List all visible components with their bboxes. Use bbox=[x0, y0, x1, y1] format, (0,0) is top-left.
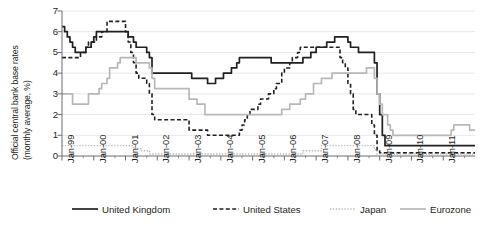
x-axis-tick-label: Jan-00 bbox=[98, 135, 108, 163]
legend-item-eurozone[interactable]: Eurozone bbox=[400, 200, 471, 218]
chart-svg bbox=[62, 11, 475, 156]
y-axis-tick-label: 4 bbox=[44, 67, 58, 78]
legend-swatch-icon bbox=[213, 204, 239, 214]
legend-item-japan[interactable]: Japan bbox=[330, 200, 386, 218]
x-axis-tick-label: Jan-05 bbox=[257, 135, 267, 163]
legend-label: United States bbox=[243, 204, 301, 215]
y-axis-title: Official central bank base rates (monthl… bbox=[0, 0, 36, 170]
y-axis-tick-label: 2 bbox=[44, 109, 58, 120]
x-axis-tick-label: Jan-11 bbox=[447, 135, 457, 163]
y-axis-tick-label: 7 bbox=[44, 5, 58, 16]
legend-swatch-icon bbox=[72, 204, 98, 214]
chart-container: Official central bank base rates (monthl… bbox=[0, 0, 490, 226]
x-axis-tick-label: Jan-10 bbox=[415, 135, 425, 163]
series-line-eurozone bbox=[62, 58, 475, 136]
plot-area bbox=[62, 11, 475, 156]
x-axis-tick-label: Jan-04 bbox=[225, 135, 235, 163]
legend-label: United Kingdom bbox=[102, 204, 170, 215]
legend-label: Japan bbox=[360, 204, 386, 215]
x-axis-tick-label: Jan-06 bbox=[288, 135, 298, 163]
legend-item-united-states[interactable]: United States bbox=[213, 200, 301, 218]
y-axis-tick-label: 6 bbox=[44, 26, 58, 37]
x-axis-tick-label: Jan-03 bbox=[193, 135, 203, 163]
y-axis-tick-labels: 01234567 bbox=[36, 0, 58, 170]
x-axis-tick-label: Jan-09 bbox=[384, 135, 394, 163]
legend-label: Eurozone bbox=[430, 204, 471, 215]
y-axis-tick-label: 5 bbox=[44, 46, 58, 57]
legend-item-united-kingdom[interactable]: United Kingdom bbox=[72, 200, 170, 218]
y-axis-tick-label: 1 bbox=[44, 129, 58, 140]
y-axis-title-line-2: (monthly average, %) bbox=[22, 80, 33, 160]
x-axis-tick-label: Jan-02 bbox=[161, 135, 171, 163]
series-line-united-states bbox=[62, 21, 475, 153]
x-axis-tick-label: Jan-01 bbox=[130, 135, 140, 163]
x-axis-tick-label: Jan-07 bbox=[320, 135, 330, 163]
y-axis-tick-label: 3 bbox=[44, 88, 58, 99]
chart-legend: United KingdomUnited StatesJapanEurozone bbox=[0, 200, 490, 222]
x-axis-tick-label: Jan-08 bbox=[352, 135, 362, 163]
series-line-united-kingdom bbox=[62, 27, 475, 146]
y-axis-title-line-1: Official central bank base rates bbox=[10, 45, 21, 160]
legend-swatch-icon bbox=[330, 204, 356, 214]
y-axis-tick-label: 0 bbox=[44, 150, 58, 161]
x-axis-tick-label: Jan-99 bbox=[66, 135, 76, 163]
legend-swatch-icon bbox=[400, 204, 426, 214]
